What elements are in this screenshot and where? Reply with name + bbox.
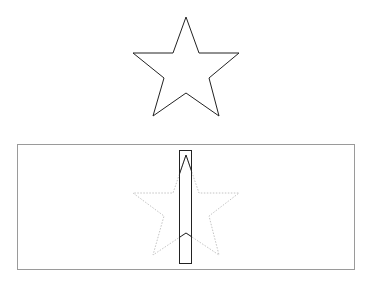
ghost-star-shape xyxy=(133,155,239,255)
preview-frame xyxy=(18,145,355,270)
star-shape xyxy=(133,17,239,116)
diagram-canvas xyxy=(0,0,375,287)
